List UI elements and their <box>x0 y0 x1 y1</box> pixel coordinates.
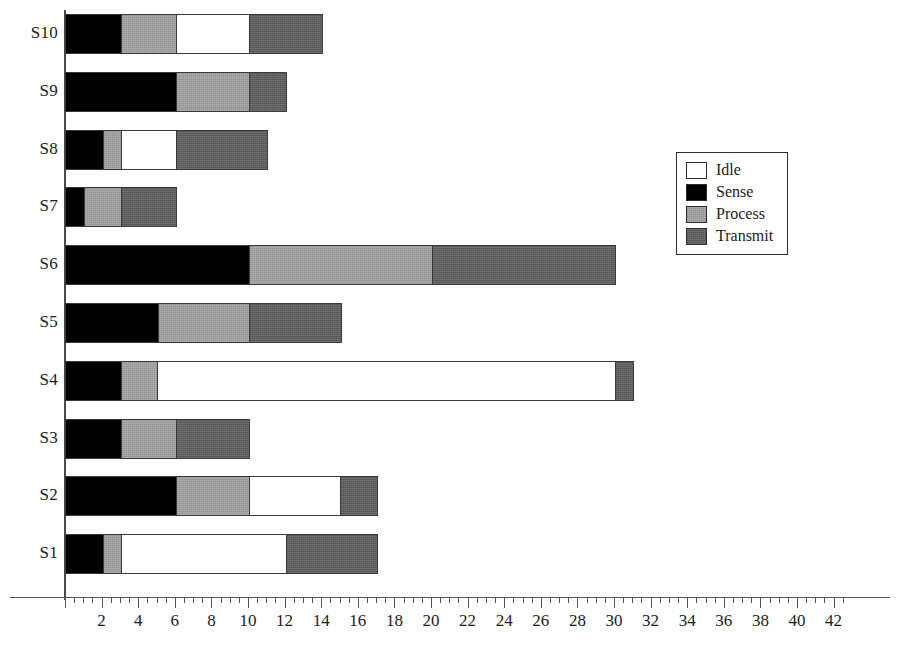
x-tick-minor <box>806 597 807 603</box>
x-tick-label: 38 <box>740 611 780 631</box>
x-tick-label: 32 <box>631 611 671 631</box>
x-tick-minor <box>111 597 112 603</box>
bar-segment-sense <box>66 477 176 515</box>
x-tick-label: 22 <box>448 611 488 631</box>
x-tick-minor <box>202 597 203 603</box>
x-tick-minor <box>404 597 405 603</box>
x-tick-minor <box>147 597 148 603</box>
bar-category-label: S3 <box>18 417 58 459</box>
legend: IdleSenseProcessTransmit <box>676 152 788 255</box>
stacked-bar <box>65 187 177 227</box>
x-tick-minor <box>129 597 130 603</box>
legend-swatch-sense <box>686 184 707 201</box>
x-tick-minor <box>550 597 551 603</box>
x-tick-minor <box>660 597 661 603</box>
bar-segment-idle <box>121 535 286 573</box>
x-tick-major <box>577 597 578 608</box>
x-tick-minor <box>340 597 341 603</box>
x-tick-major <box>431 597 432 608</box>
plot-area: S10S9S8S7S6S5S4S3S2S1 246810121416182022… <box>0 0 903 650</box>
legend-label: Idle <box>716 161 741 179</box>
stacked-bar-chart: S10S9S8S7S6S5S4S3S2S1 246810121416182022… <box>0 0 903 650</box>
legend-item: Idle <box>686 159 773 181</box>
x-tick-minor <box>632 597 633 603</box>
x-tick-minor <box>157 597 158 603</box>
bar-segment-idle <box>176 15 249 53</box>
x-tick-major <box>394 597 395 608</box>
x-tick-major <box>285 597 286 608</box>
bar-segment-transmit <box>249 15 322 53</box>
x-tick-minor <box>367 597 368 603</box>
bar-segment-process <box>121 15 176 53</box>
x-tick-minor <box>312 597 313 603</box>
x-tick-major <box>468 597 469 608</box>
bar-segment-sense <box>66 362 121 400</box>
x-tick-minor <box>605 597 606 603</box>
x-tick-minor <box>513 597 514 603</box>
legend-items: IdleSenseProcessTransmit <box>686 159 773 247</box>
x-tick-minor <box>221 597 222 603</box>
x-tick-minor <box>257 597 258 603</box>
bar-category-label: S9 <box>18 70 58 112</box>
x-tick-label: 2 <box>82 611 122 631</box>
x-tick-minor <box>824 597 825 603</box>
x-tick-major <box>651 597 652 608</box>
legend-swatch-idle <box>686 162 707 179</box>
x-tick-major <box>687 597 688 608</box>
x-tick-major <box>211 597 212 608</box>
bar-segment-sense <box>66 188 84 226</box>
x-tick-minor <box>193 597 194 603</box>
bar-segment-process <box>176 477 249 515</box>
x-tick-minor <box>770 597 771 603</box>
x-tick-label: 10 <box>228 611 268 631</box>
x-tick-label: 4 <box>118 611 158 631</box>
bar-segment-sense <box>66 246 249 284</box>
bar-segment-transmit <box>121 188 176 226</box>
x-tick-major <box>834 597 835 608</box>
x-tick-minor <box>458 597 459 603</box>
x-tick-minor <box>120 597 121 603</box>
x-tick-label: 24 <box>484 611 524 631</box>
x-tick-minor <box>495 597 496 603</box>
x-tick-label: 18 <box>374 611 414 631</box>
legend-label: Process <box>716 205 765 223</box>
bar-segment-sense <box>66 304 158 342</box>
x-tick-minor <box>733 597 734 603</box>
bar-category-label: S10 <box>18 12 58 54</box>
bar-segment-idle <box>121 131 176 169</box>
bar-segment-process <box>121 362 158 400</box>
bar-segment-transmit <box>176 420 249 458</box>
x-tick-minor <box>779 597 780 603</box>
stacked-bar <box>65 245 616 285</box>
x-tick-minor <box>696 597 697 603</box>
x-tick-minor <box>349 597 350 603</box>
x-tick-minor <box>294 597 295 603</box>
bar-category-label: S4 <box>18 359 58 401</box>
x-tick-label: 20 <box>411 611 451 631</box>
legend-item: Sense <box>686 181 773 203</box>
x-tick-major <box>358 597 359 608</box>
x-tick-label: 28 <box>557 611 597 631</box>
x-tick-minor <box>843 597 844 603</box>
bar-segment-transmit <box>176 131 268 169</box>
bar-category-label: S5 <box>18 301 58 343</box>
x-tick-minor <box>587 597 588 603</box>
x-tick-minor <box>92 597 93 603</box>
bar-segment-idle <box>157 362 615 400</box>
bar-segment-sense <box>66 73 176 111</box>
stacked-bar <box>65 361 634 401</box>
x-tick-minor <box>742 597 743 603</box>
x-tick-label: 36 <box>704 611 744 631</box>
bar-segment-transmit <box>286 535 378 573</box>
x-tick-minor <box>266 597 267 603</box>
x-tick-minor <box>788 597 789 603</box>
bar-segment-transmit <box>249 304 341 342</box>
x-tick-minor <box>477 597 478 603</box>
legend-item: Process <box>686 203 773 225</box>
stacked-bar <box>65 130 268 170</box>
legend-swatch-transmit <box>686 228 707 245</box>
stacked-bar <box>65 419 250 459</box>
x-tick-minor <box>706 597 707 603</box>
x-tick-minor <box>449 597 450 603</box>
x-tick-label: 6 <box>155 611 195 631</box>
